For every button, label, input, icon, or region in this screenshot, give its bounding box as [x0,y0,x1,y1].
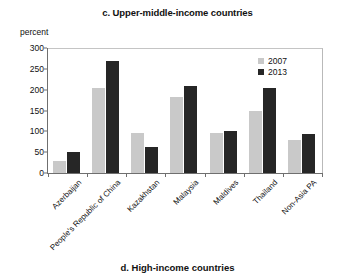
bar-2007 [170,97,183,173]
y-axis-tick-label: 150 [30,106,44,116]
legend-swatch-2013-icon [258,69,264,75]
y-axis-tick-mark [44,131,47,132]
x-axis-tick-mark [48,173,49,177]
bar-2013 [67,152,80,173]
legend-swatch-2007-icon [258,58,264,64]
y-axis-tick-label: 100 [30,126,44,136]
legend: 2007 2013 [258,55,287,77]
x-axis-line [47,173,323,174]
y-axis-tick-label: 250 [30,64,44,74]
x-axis-category-label: Malaysia [172,178,201,207]
y-axis-tick-label: 50 [35,147,44,157]
bar-2007 [53,161,66,174]
chart-title: c. Upper-middle-income countries [0,7,355,18]
x-axis-category-label: Non-Asia PA [280,178,318,216]
x-axis-tick-mark [205,173,206,177]
y-axis-tick-mark [44,89,47,90]
x-axis-tick-mark [165,173,166,177]
x-axis-category-label: People's Republic of China [48,178,122,252]
x-axis-category-label: Kazakhstan [126,178,162,214]
bar-group [126,48,165,173]
y-axis-tick-mark [44,48,47,49]
bar-2007 [249,111,262,173]
bar-2013 [263,88,276,173]
legend-item-2013: 2013 [258,66,287,77]
bar-2007 [210,133,223,173]
bar-2013 [224,131,237,173]
bar-2013 [145,147,158,173]
y-axis-tick-label: 300 [30,43,44,53]
bar-group [205,48,244,173]
bar-group [87,48,126,173]
bar-2007 [92,88,105,173]
bar-2013 [106,61,119,173]
x-axis-category-label: Thailand [251,178,279,206]
x-axis-category-label: Maldives [211,178,240,207]
y-axis-tick-mark [44,173,47,174]
x-axis-tick-mark [126,173,127,177]
bar-2007 [288,140,301,173]
legend-label-2013: 2013 [268,67,287,77]
bar-2013 [302,134,315,173]
bar-2013 [184,86,197,173]
y-axis-tick-mark [44,152,47,153]
legend-label-2007: 2007 [268,56,287,66]
bar-group [48,48,87,173]
bar-2007 [131,133,144,173]
x-axis-tick-mark [87,173,88,177]
x-axis-category-label: Azerbaijan [50,178,83,211]
y-axis-tick-mark [44,110,47,111]
x-axis-tick-mark [322,173,323,177]
next-figure-caption: d. High-income countries [0,262,355,273]
x-axis-tick-mark [244,173,245,177]
y-axis-ticks: 050100150200250300 [0,0,44,279]
bar-group [283,48,322,173]
y-axis-tick-mark [44,68,47,69]
bar-group [165,48,204,173]
y-axis-tick-label: 200 [30,85,44,95]
x-axis-tick-mark [283,173,284,177]
figure-panel: c. Upper-middle-income countries percent… [0,0,355,279]
legend-item-2007: 2007 [258,55,287,66]
